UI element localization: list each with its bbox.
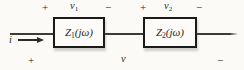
impedance-box-z2: Z2(jω) (143, 17, 197, 48)
v-minus-sign: − (214, 55, 226, 65)
z1-argument: (jω) (75, 26, 93, 38)
v2-subscript: 2 (169, 5, 173, 13)
current-arrow-head (37, 37, 44, 43)
v2-minus-sign: − (193, 2, 205, 12)
current-label: i (9, 35, 12, 45)
v1-plus-sign: + (39, 2, 51, 12)
v1-label: v1 (70, 1, 78, 11)
v-label: v (121, 54, 126, 64)
v2-label: v2 (164, 1, 172, 11)
z2-argument: (jω) (166, 26, 184, 38)
wire-right-segment (196, 33, 238, 35)
z2-label: Z2(jω) (156, 19, 184, 46)
impedance-box-z1: Z1(jω) (53, 17, 105, 48)
wire-left-segment (10, 33, 53, 35)
current-arrow (18, 36, 44, 44)
v1-minus-sign: − (102, 2, 114, 12)
current-arrow-line (18, 39, 39, 40)
v2-plus-sign: + (137, 2, 149, 12)
v1-subscript: 1 (75, 5, 79, 13)
z1-label: Z1(jω) (65, 19, 93, 46)
circuit-diagram: Z1(jω) Z2(jω) + v1 − + v2 − + v − i (0, 0, 244, 70)
wire-middle-segment (105, 33, 144, 35)
v-plus-sign: + (25, 55, 37, 65)
